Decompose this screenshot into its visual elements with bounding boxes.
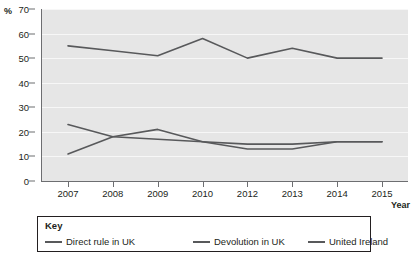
y-tick-label: 20	[18, 126, 29, 137]
x-axis-ticks: 20072008200920102012201320142015	[42, 182, 408, 206]
legend-items: Direct rule in UKDevolution in UKUnited …	[45, 236, 367, 250]
x-tick-mark	[113, 182, 114, 187]
legend-item-label: Devolution in UK	[214, 236, 285, 247]
y-tick-label: 40	[18, 77, 29, 88]
y-tick-label: 70	[18, 4, 29, 15]
x-tick-mark	[158, 182, 159, 187]
y-axis-ticks: 706050403020100	[0, 0, 42, 259]
x-tick-label: 2013	[282, 188, 303, 199]
x-tick-label: 2009	[147, 188, 168, 199]
x-tick-mark	[247, 182, 248, 187]
legend-item-label: United Ireland	[329, 236, 388, 247]
y-tick-mark	[29, 181, 35, 182]
x-tick-mark	[292, 182, 293, 187]
series-lines	[42, 9, 408, 181]
y-tick-label: 30	[18, 102, 29, 113]
y-tick-mark	[29, 131, 35, 132]
legend-title: Key	[45, 220, 62, 231]
legend-line-swatch-icon	[45, 241, 62, 243]
y-tick-mark	[29, 9, 35, 10]
x-tick-mark	[203, 182, 204, 187]
x-tick-label: 2007	[57, 188, 78, 199]
y-tick-mark	[29, 33, 35, 34]
x-axis-title: Year	[391, 200, 410, 210]
y-tick-label: 50	[18, 53, 29, 64]
legend-item-label: Direct rule in UK	[66, 236, 135, 247]
y-tick-mark	[29, 156, 35, 157]
legend-item: United Ireland	[308, 236, 388, 247]
legend-line-swatch-icon	[193, 241, 210, 243]
y-tick-label: 10	[18, 151, 29, 162]
x-tick-label: 2015	[371, 188, 392, 199]
legend: Key Direct rule in UKDevolution in UKUni…	[37, 216, 371, 252]
plot-area	[42, 9, 408, 181]
line-chart: % 706050403020100 2007200820092010201220…	[0, 0, 416, 259]
legend-item: Direct rule in UK	[45, 236, 135, 247]
x-tick-label: 2014	[327, 188, 348, 199]
y-tick-label: 60	[18, 28, 29, 39]
x-tick-mark	[337, 182, 338, 187]
x-tick-label: 2008	[102, 188, 123, 199]
series-line	[68, 129, 382, 154]
y-tick-mark	[29, 82, 35, 83]
x-tick-mark	[68, 182, 69, 187]
x-tick-label: 2010	[192, 188, 213, 199]
y-tick-mark	[29, 58, 35, 59]
y-tick-mark	[29, 107, 35, 108]
x-tick-label: 2012	[237, 188, 258, 199]
legend-line-swatch-icon	[308, 241, 325, 243]
series-line	[68, 38, 382, 58]
legend-item: Devolution in UK	[193, 236, 285, 247]
series-line	[68, 124, 382, 144]
x-tick-mark	[382, 182, 383, 187]
